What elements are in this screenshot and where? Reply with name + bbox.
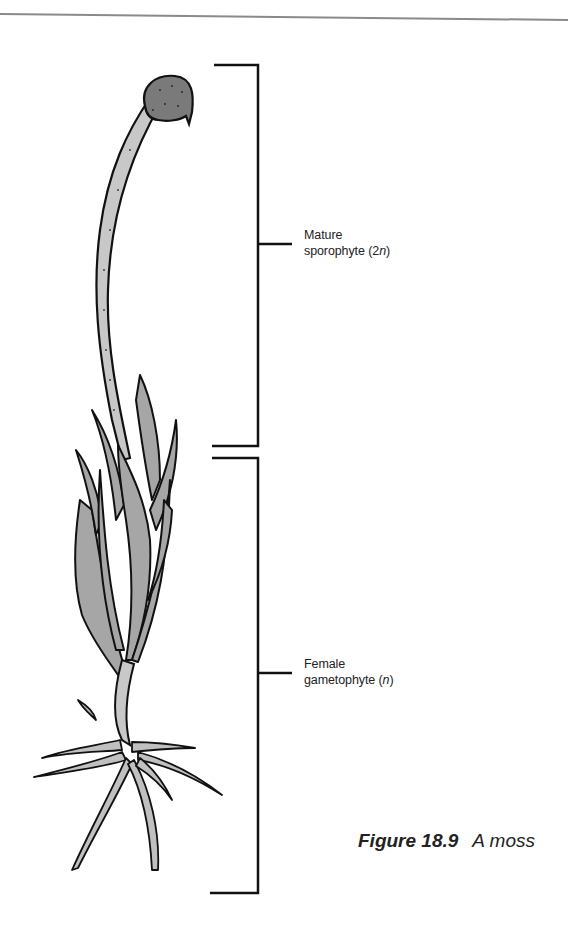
label-text: gametophyte ( [304, 673, 383, 687]
figure-number: Figure 18.9 [358, 830, 458, 851]
label-line-2: gametophyte (n) [304, 672, 394, 688]
label-line-2: sporophyte (2n) [304, 243, 390, 259]
ploidy-symbol: n [379, 244, 386, 258]
figure-caption: Figure 18.9A moss [358, 830, 535, 852]
sporophyte-capsule [144, 76, 193, 124]
gametophyte-stem [115, 660, 134, 745]
rhizoids [34, 700, 222, 870]
label-text: sporophyte (2 [304, 244, 379, 258]
label-line-1: Mature [304, 227, 390, 243]
gametophyte-leaves [75, 375, 177, 675]
moss-diagram [0, 0, 568, 933]
label-mature-sporophyte: Mature sporophyte (2n) [304, 227, 390, 259]
gametophyte-bracket [210, 458, 292, 893]
label-text: ) [386, 244, 390, 258]
label-line-1: Female [304, 656, 394, 672]
figure-title: A moss [472, 830, 535, 851]
sporophyte-bracket [212, 65, 292, 446]
label-female-gametophyte: Female gametophyte (n) [304, 656, 394, 688]
label-text: ) [389, 673, 393, 687]
